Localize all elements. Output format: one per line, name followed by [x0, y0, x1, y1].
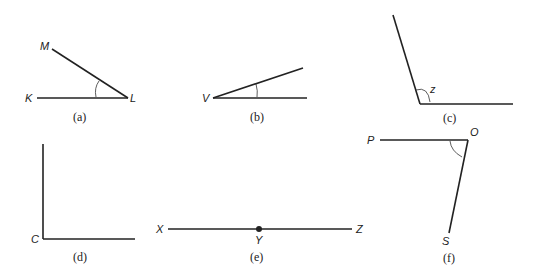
caption-f: (f) — [443, 251, 455, 265]
caption-d: (d) — [73, 250, 87, 264]
label-x: X — [155, 223, 164, 235]
label-z: Z — [355, 223, 364, 235]
ray-lm — [52, 49, 128, 98]
label-l: L — [130, 92, 136, 104]
angle-arc-icon — [450, 141, 462, 157]
label-c: C — [31, 233, 39, 245]
angle-arc-icon — [256, 84, 257, 97]
ray-os — [449, 140, 468, 233]
point-y-dot — [256, 226, 262, 232]
label-o: O — [470, 126, 479, 138]
panel-d: C (d) — [31, 144, 135, 264]
label-z: z — [429, 83, 436, 95]
ray-upper — [393, 15, 420, 104]
caption-e: (e) — [250, 250, 263, 264]
ray-upper — [213, 68, 303, 98]
label-k: K — [25, 92, 33, 104]
angle-arc-icon — [95, 81, 99, 97]
label-m: M — [40, 40, 50, 52]
label-v: V — [202, 92, 211, 104]
caption-a: (a) — [73, 110, 86, 124]
panel-b: V (b) — [202, 68, 307, 124]
angles-diagram: M K L (a) V (b) z (c) C (d) X Y Z (e) — [0, 0, 539, 276]
panel-f: P O S (f) — [367, 126, 479, 265]
panel-c: z (c) — [393, 15, 513, 125]
panel-e: X Y Z (e) — [155, 223, 364, 264]
caption-c: (c) — [443, 111, 456, 125]
caption-b: (b) — [250, 110, 264, 124]
label-p: P — [367, 134, 375, 146]
panel-a: M K L (a) — [25, 40, 136, 124]
label-y: Y — [255, 234, 263, 246]
label-s: S — [442, 235, 450, 247]
